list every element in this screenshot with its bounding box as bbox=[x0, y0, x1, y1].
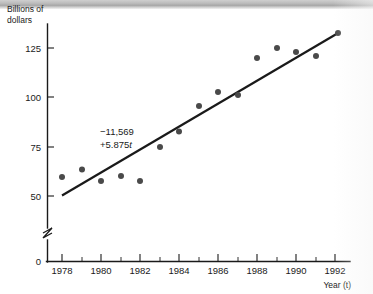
y-tick-label-75: 75 bbox=[30, 142, 41, 153]
chart-figure: Billions of dollars 125 100 75 50 0 bbox=[0, 0, 373, 294]
y-axis-label-line2: dollars bbox=[7, 15, 32, 25]
regression-line bbox=[62, 33, 339, 196]
regression-equation-line2: +5.875t bbox=[100, 139, 132, 150]
x-tick-label-1982: 1982 bbox=[129, 265, 150, 276]
data-point-1992 bbox=[335, 30, 341, 36]
y-axis-label-line1: Billions of bbox=[7, 4, 44, 14]
x-tick-label-1986: 1986 bbox=[207, 265, 228, 276]
data-point-1986 bbox=[215, 89, 221, 95]
data-point-1985 bbox=[196, 103, 202, 109]
data-point-1979 bbox=[79, 167, 85, 173]
x-tick-label-1990: 1990 bbox=[285, 265, 306, 276]
y-tick-label-0: 0 bbox=[36, 256, 41, 267]
regression-variable-text: t bbox=[129, 139, 132, 150]
data-point-1987 bbox=[235, 92, 241, 98]
regression-equation-line1: −11,569 bbox=[100, 126, 134, 137]
y-tick-label-50: 50 bbox=[30, 191, 41, 202]
x-axis-label: Year (t) bbox=[323, 280, 351, 290]
x-tick-label-1984: 1984 bbox=[168, 265, 189, 276]
data-point-1980 bbox=[98, 178, 104, 184]
data-point-1990 bbox=[293, 49, 299, 55]
data-point-1978 bbox=[59, 174, 65, 180]
data-point-1989 bbox=[274, 45, 280, 51]
x-tick-label-1992: 1992 bbox=[324, 265, 345, 276]
x-tick-label-1980: 1980 bbox=[90, 265, 111, 276]
x-tick-label-1978: 1978 bbox=[51, 265, 72, 276]
data-point-1991 bbox=[313, 53, 319, 59]
regression-slope-text: +5.875 bbox=[100, 139, 129, 150]
data-point-1988 bbox=[254, 55, 260, 61]
x-tick-label-1988: 1988 bbox=[246, 265, 267, 276]
data-point-1981 bbox=[118, 173, 124, 179]
data-point-1982 bbox=[137, 178, 143, 184]
y-axis-break-icon bbox=[43, 228, 52, 238]
y-tick-label-125: 125 bbox=[25, 43, 41, 54]
scatter-chart-svg: Billions of dollars 125 100 75 50 0 bbox=[0, 0, 373, 294]
data-point-1983 bbox=[157, 144, 163, 150]
y-tick-label-100: 100 bbox=[25, 92, 41, 103]
data-point-1984 bbox=[176, 129, 182, 135]
